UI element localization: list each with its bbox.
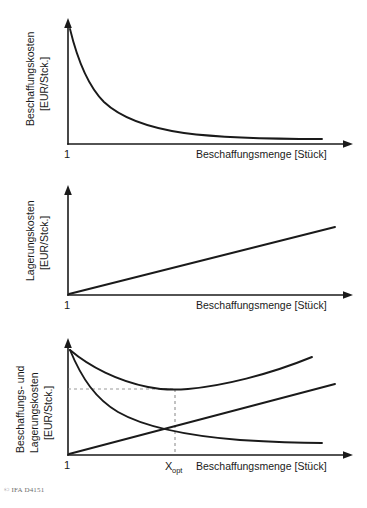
y-axis-label-2-line2: [EUR/Stck.]: [38, 216, 50, 270]
x-axis-arrow-2: [343, 291, 353, 299]
x-axis-arrow-1: [343, 140, 353, 148]
chart-svg-2: 1 Beschaffungsmenge [Stück] Lagerungskos…: [0, 165, 367, 335]
y-axis-arrow-1: [64, 18, 72, 28]
chart-panel-procurement-costs: 1 Beschaffungsmenge [Stück] Beschaffungs…: [0, 0, 367, 165]
y-axis-label-1-line2: [EUR/Stck.]: [38, 57, 50, 111]
x-axis-label-1: Beschaffungsmenge [Stück]: [196, 148, 327, 160]
curve-procurement-costs: [70, 29, 322, 139]
y-axis-label-1-line1: Beschaffungskosten: [24, 31, 36, 126]
chart-panel-storage-costs: 1 Beschaffungsmenge [Stück] Lagerungskos…: [0, 165, 367, 335]
chart-svg-3: 1 X opt Beschaffungsmenge [Stück] Bescha…: [0, 335, 367, 480]
x-tick-label-3: 1: [64, 459, 70, 471]
y-axis-arrow-3: [64, 338, 72, 348]
xopt-label-subscript: opt: [172, 466, 183, 475]
x-axis-label-2: Beschaffungsmenge [Stück]: [196, 299, 327, 311]
y-axis-label-3-line3: [EUR/Stck.]: [42, 386, 54, 440]
curve-storage-costs: [69, 227, 335, 294]
y-axis-label-2-line1: Lagerungskosten: [24, 200, 36, 281]
x-axis-label-3: Beschaffungsmenge [Stück]: [196, 460, 327, 472]
chart-panel-total-costs: 1 X opt Beschaffungsmenge [Stück] Bescha…: [0, 335, 367, 480]
x-tick-label-2: 1: [64, 299, 70, 311]
y-axis-arrow-2: [64, 185, 72, 195]
chart-svg-1: 1 Beschaffungsmenge [Stück] Beschaffungs…: [0, 0, 367, 165]
figure-container: 1 Beschaffungsmenge [Stück] Beschaffungs…: [0, 0, 367, 508]
y-axis-label-3-line2: Lagerungskosten: [28, 372, 40, 453]
copyright-credit: © IFA D4151: [4, 486, 44, 494]
x-axis-arrow-3: [343, 451, 353, 459]
curve-total-costs-3: [70, 350, 312, 390]
x-tick-label-1: 1: [64, 148, 70, 160]
y-axis-label-3-line1: Beschaffungs- und: [14, 365, 26, 453]
